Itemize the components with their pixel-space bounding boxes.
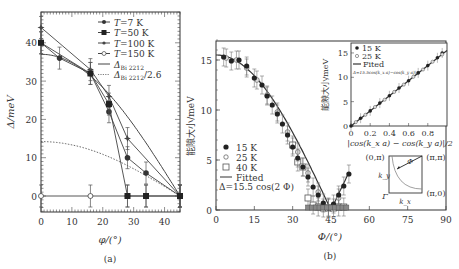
y-tick-label: 40 — [26, 38, 38, 48]
marker-filled-circle — [270, 102, 275, 107]
x-tick-label: 0 — [38, 217, 44, 227]
legend-marker — [102, 41, 105, 44]
marker-filled-circle — [125, 155, 131, 161]
y-axis-label: 能隙大小/meV — [185, 96, 196, 156]
y-tick-label: 10 — [26, 153, 38, 163]
legend-marker — [223, 164, 229, 170]
legend-label: 25 K — [236, 153, 257, 163]
x-tick-label: 15 — [249, 215, 261, 225]
inset-y-tick-label: 0 — [343, 122, 348, 131]
bz-square — [389, 156, 422, 193]
legend-label: 40 K — [236, 163, 257, 173]
marker-open-circle — [39, 194, 44, 199]
bz-angle-label: Φ — [407, 158, 413, 166]
x-tick-label: 40 — [159, 217, 171, 227]
panel-label-a: (a) — [104, 254, 116, 264]
marker-filled-circle — [285, 132, 290, 137]
inset-y-tick-label: 15 — [338, 49, 348, 58]
x-tick-label: 60 — [364, 215, 376, 225]
marker-filled-circle — [436, 56, 440, 60]
panel-a: 010203040010203040φ/(°)Δ/meV(a)T=7 KT=50… — [5, 12, 184, 264]
marker-open-square — [305, 195, 311, 201]
marker-filled-circle — [397, 86, 401, 90]
inset-x-axis-label: |cos(k_x a) − cos(k_y a)|/2 — [347, 139, 453, 148]
marker-filled-circle — [236, 57, 241, 62]
legend-label: Fitted — [236, 173, 264, 183]
bz-axis-ky: k_y — [378, 172, 391, 180]
marker-filled-circle — [311, 184, 316, 189]
y-tick-label: 10 — [201, 106, 213, 116]
panel-label-b: (b) — [324, 251, 337, 261]
inset-y-axis-label: 能隙大小/meV — [320, 58, 330, 111]
marker-filled-circle — [407, 79, 411, 83]
marker-filled-circle — [275, 111, 280, 116]
inset-y-tick-label: 5 — [343, 98, 348, 107]
legend-b: 15 K25 K40 KFittedΔ=15.5 cos(2 Φ) — [219, 143, 294, 193]
legend-marker — [223, 144, 228, 149]
y-tick-label: 15 — [201, 56, 213, 66]
x-tick-label: 10 — [66, 217, 78, 227]
legend-label: ΔBi 2212/2.6 — [113, 70, 162, 81]
marker-open-circle — [421, 68, 424, 71]
marker-open-circle — [431, 60, 434, 63]
inset-legend-formula: Δ=15.5cos(k_x a)−cos(k_y a)|/2 — [352, 70, 420, 75]
marker-filled-circle — [426, 64, 430, 68]
marker-open-circle — [441, 53, 444, 56]
y-tick-label: 0 — [206, 206, 212, 216]
x-tick-label: 75 — [402, 215, 414, 225]
marker-square — [177, 193, 183, 199]
legend-label: 15 K — [236, 143, 257, 153]
inset-x-tick-label: 0.2 — [364, 129, 377, 138]
marker-square — [124, 193, 130, 199]
marker-filled-circle — [316, 192, 321, 197]
inset-x-tick-label: 0.4 — [383, 129, 396, 138]
marker-filled-circle — [280, 121, 285, 126]
marker-filled-circle — [368, 109, 372, 113]
marker-filled-circle — [305, 174, 310, 179]
marker-square — [143, 193, 149, 199]
inset-legend-marker — [355, 54, 358, 57]
marker-open-circle — [373, 105, 376, 108]
marker-open-circle — [412, 75, 415, 78]
legend-label: T=150 K — [114, 49, 155, 59]
inset-x-tick-label: 0.8 — [421, 129, 434, 138]
marker-filled-circle — [143, 170, 149, 176]
marker-square — [87, 70, 93, 76]
inset-y-tick-label: 10 — [338, 73, 348, 82]
marker-square — [106, 101, 112, 107]
legend-marker — [102, 52, 106, 56]
legend-marker — [224, 155, 228, 159]
x-tick-label: 20 — [97, 217, 109, 227]
y-axis-label: Δ/meV — [5, 94, 16, 130]
y-tick-label: 0 — [31, 192, 37, 202]
legend-marker — [102, 20, 106, 24]
y-tick-label: 5 — [206, 156, 212, 166]
legend-label: T=100 K — [114, 39, 155, 49]
marker-filled-circle — [346, 171, 351, 176]
curve-delta-bi2212-scaled — [41, 142, 180, 196]
marker-filled-circle — [349, 124, 353, 128]
marker-filled-circle — [295, 155, 300, 160]
legend-a: T=7 KT=50 KT=100 KT=150 KΔBi 2212ΔBi 221… — [98, 18, 162, 82]
bz-label-pi0: (π,0) — [426, 189, 445, 198]
bz-label-pipi: (π,π) — [426, 153, 445, 162]
marker-open-circle — [364, 113, 367, 116]
y-tick-label: 30 — [26, 77, 38, 87]
bz-label-gamma: Γ — [381, 192, 388, 201]
inset-scatter: 00.20.40.60.8051015能隙大小/meV|cos(k_x a) −… — [320, 43, 453, 148]
marker-filled-circle — [378, 101, 382, 105]
marker-filled-circle — [341, 183, 346, 188]
marker-filled-circle — [221, 54, 226, 59]
figure: 010203040010203040φ/(°)Δ/meV(a)T=7 KT=50… — [0, 0, 459, 269]
marker-zero-gap — [344, 205, 349, 210]
bz-axis-kx: k_x — [399, 198, 411, 206]
bz-label-0pi: (0,π) — [365, 153, 384, 162]
marker-filled-circle — [57, 55, 63, 61]
x-tick-label: 30 — [128, 217, 140, 227]
x-tick-label: 90 — [440, 215, 452, 225]
marker-filled-circle — [252, 75, 257, 80]
legend-label: T=50 K — [114, 28, 149, 38]
x-tick-label: 45 — [325, 215, 337, 225]
marker-filled-circle — [300, 164, 305, 169]
x-axis-label: φ/(°) — [98, 234, 121, 245]
